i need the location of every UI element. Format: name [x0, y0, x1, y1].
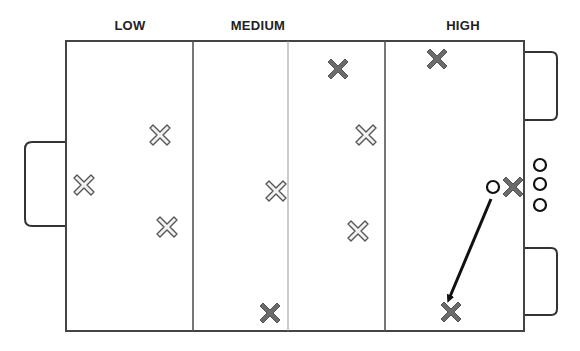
field-diagram	[0, 0, 580, 351]
opponent-circle-icon	[534, 159, 546, 171]
right-goal-bottom	[524, 248, 557, 315]
zone-label-low: LOW	[114, 18, 145, 33]
opponent-circle-icon	[534, 199, 546, 211]
left-goal	[25, 142, 66, 226]
opponent-circle-icon	[487, 181, 499, 193]
opponent-circle-icon	[534, 178, 546, 190]
right-goal-top	[524, 52, 557, 120]
zone-label-medium: MEDIUM	[231, 18, 286, 33]
zone-label-high: HIGH	[446, 18, 480, 33]
